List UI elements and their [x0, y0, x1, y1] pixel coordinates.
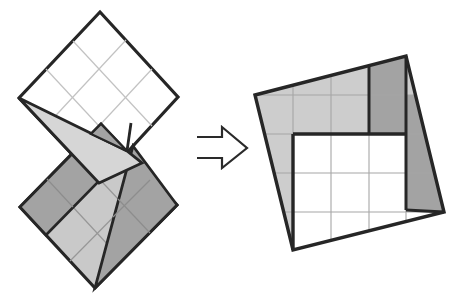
dissection-diagram	[0, 0, 460, 300]
right-arrow-icon	[197, 127, 247, 168]
transform-arrow	[197, 127, 247, 168]
unfolded-square-figure	[255, 56, 444, 250]
folded-state-figure	[19, 12, 178, 288]
diagram-canvas	[0, 0, 460, 300]
